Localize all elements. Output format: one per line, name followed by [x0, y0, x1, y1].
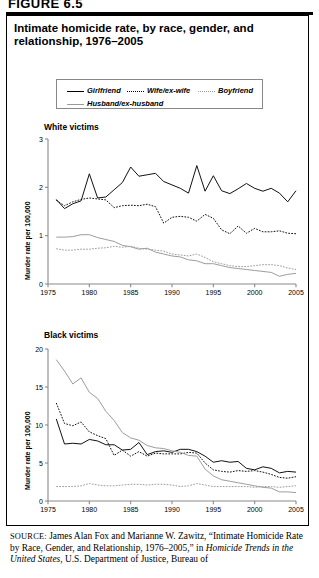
- chart-legend: Girlfriend Wife/ex-wife Boyfriend Husban…: [56, 79, 263, 109]
- svg-text:1990: 1990: [164, 289, 180, 296]
- svg-text:2005: 2005: [288, 506, 304, 513]
- source-note: SOURCE: James Alan Fox and Marianne W. Z…: [10, 531, 310, 566]
- legend-swatch-dotted-gray-icon: [198, 87, 215, 94]
- source-prefix: SOURCE:: [10, 532, 47, 541]
- svg-text:10: 10: [35, 422, 43, 429]
- figure-number: FIGURE 6.5: [8, 0, 83, 11]
- panel-heading-black-victims: Black victims: [44, 330, 98, 340]
- svg-text:2005: 2005: [288, 289, 304, 296]
- svg-text:1995: 1995: [206, 289, 222, 296]
- legend-label-girlfriend: Girlfriend: [87, 86, 121, 95]
- source-text-2: , U.S. Department of Justice, Bureau of: [60, 554, 208, 564]
- panel-heading-white-victims: White victims: [44, 122, 99, 132]
- svg-text:2000: 2000: [247, 289, 263, 296]
- svg-text:2000: 2000: [247, 506, 263, 513]
- svg-text:1975: 1975: [40, 506, 56, 513]
- legend-label-boyfriend: Boyfriend: [218, 86, 253, 95]
- legend-swatch-solid-black-icon: [67, 87, 84, 94]
- legend-label-husband-ex-husband: Husband/ex-husband: [87, 99, 163, 108]
- svg-text:3: 3: [39, 136, 43, 143]
- legend-item-boyfriend: Boyfriend: [198, 83, 253, 98]
- chart-white-victims: 01231975198019851990199520002005: [30, 135, 304, 300]
- legend-swatch-solid-gray-icon: [67, 100, 84, 107]
- legend-item-husband-ex-husband: Husband/ex-husband: [67, 96, 163, 111]
- legend-label-wife-ex-wife: Wife/ex-wife: [147, 86, 190, 95]
- svg-text:2: 2: [39, 184, 43, 191]
- svg-text:1990: 1990: [164, 506, 180, 513]
- svg-text:1975: 1975: [40, 289, 56, 296]
- svg-text:0: 0: [39, 281, 43, 288]
- chart-black-victims: 051015201975198019851990199520002005: [30, 345, 304, 517]
- svg-text:1985: 1985: [123, 289, 139, 296]
- svg-text:15: 15: [35, 384, 43, 391]
- svg-text:1995: 1995: [206, 506, 222, 513]
- svg-text:1985: 1985: [123, 506, 139, 513]
- svg-text:0: 0: [39, 498, 43, 505]
- svg-text:1: 1: [39, 232, 43, 239]
- legend-swatch-dotted-black-icon: [127, 87, 144, 94]
- svg-text:20: 20: [35, 346, 43, 353]
- svg-text:1980: 1980: [82, 506, 98, 513]
- figure-title: Intimate homicide rate, by race, gender,…: [14, 22, 294, 48]
- svg-text:5: 5: [39, 460, 43, 467]
- svg-text:1980: 1980: [82, 289, 98, 296]
